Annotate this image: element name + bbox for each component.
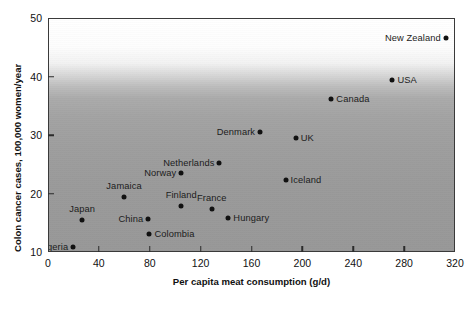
x-tick-label-280: 280 bbox=[395, 257, 413, 269]
point-label-canada: Canada bbox=[336, 94, 369, 104]
y-tick-label-50: 50 bbox=[22, 12, 42, 24]
data-point-jamaica bbox=[122, 194, 127, 199]
data-point-denmark bbox=[258, 130, 263, 135]
x-tick-label-80: 80 bbox=[144, 257, 156, 269]
x-tick-label-40: 40 bbox=[93, 257, 105, 269]
point-label-new-zealand: New Zealand bbox=[385, 33, 441, 43]
point-label-usa: USA bbox=[397, 75, 416, 85]
data-point-hungary bbox=[226, 216, 231, 221]
x-tick-40 bbox=[98, 246, 100, 252]
point-label-iceland: Iceland bbox=[291, 175, 322, 185]
data-point-iceland bbox=[283, 178, 288, 183]
data-point-japan bbox=[80, 217, 85, 222]
data-point-france bbox=[209, 207, 214, 212]
x-tick-label-120: 120 bbox=[192, 257, 210, 269]
plot-area: NigeriaJapanJamaicaChinaColombiaFinlandN… bbox=[48, 18, 455, 252]
y-tick-label-10: 10 bbox=[22, 246, 42, 258]
y-tick-label-40: 40 bbox=[22, 71, 42, 83]
data-point-uk bbox=[293, 135, 298, 140]
point-label-finland: Finland bbox=[166, 190, 197, 200]
data-point-nigeria bbox=[71, 244, 76, 249]
x-axis-title: Per capita meat consumption (g/d) bbox=[48, 276, 455, 287]
point-label-japan: Japan bbox=[69, 204, 95, 214]
point-label-jamaica: Jamaica bbox=[106, 181, 141, 191]
data-point-usa bbox=[390, 77, 395, 82]
point-label-china: China bbox=[118, 214, 143, 224]
x-tick-label-200: 200 bbox=[294, 257, 312, 269]
point-label-nigeria: Nigeria bbox=[48, 242, 68, 252]
x-tick-120 bbox=[200, 246, 202, 252]
y-tick-label-20: 20 bbox=[22, 188, 42, 200]
data-point-new-zealand bbox=[443, 36, 448, 41]
x-tick-160 bbox=[251, 246, 253, 252]
x-tick-240 bbox=[353, 246, 355, 252]
point-label-netherlands: Netherlands bbox=[163, 158, 214, 168]
x-tick-200 bbox=[302, 246, 304, 252]
x-tick-label-0: 0 bbox=[45, 257, 51, 269]
data-point-finland bbox=[179, 204, 184, 209]
scatter-plot-figure: NigeriaJapanJamaicaChinaColombiaFinlandN… bbox=[0, 0, 472, 309]
y-tick-20 bbox=[48, 193, 54, 195]
y-tick-40 bbox=[48, 76, 54, 78]
x-tick-label-320: 320 bbox=[446, 257, 464, 269]
y-tick-label-30: 30 bbox=[22, 129, 42, 141]
data-point-colombia bbox=[147, 232, 152, 237]
point-label-uk: UK bbox=[301, 133, 314, 143]
y-axis-title: Colon cancer cases, 100,000 women/year bbox=[12, 64, 23, 252]
x-tick-80 bbox=[149, 246, 151, 252]
point-label-hungary: Hungary bbox=[233, 213, 269, 223]
data-point-norway bbox=[179, 171, 184, 176]
data-point-netherlands bbox=[217, 160, 222, 165]
data-point-china bbox=[146, 217, 151, 222]
y-tick-30 bbox=[48, 134, 54, 136]
point-label-denmark: Denmark bbox=[217, 127, 255, 137]
x-tick-label-160: 160 bbox=[243, 257, 261, 269]
x-tick-280 bbox=[403, 246, 405, 252]
point-label-colombia: Colombia bbox=[154, 229, 194, 239]
x-tick-label-240: 240 bbox=[344, 257, 362, 269]
data-point-canada bbox=[329, 96, 334, 101]
point-label-norway: Norway bbox=[144, 168, 176, 178]
point-label-france: France bbox=[197, 193, 227, 203]
